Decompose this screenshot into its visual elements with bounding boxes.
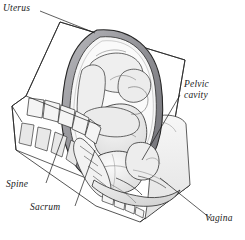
anatomical-figure: Uterus Pelvic cavity Spine Sacrum Vagina — [0, 0, 245, 240]
label-vagina: Vagina — [205, 213, 233, 224]
label-pelvic-cavity-line2: cavity — [184, 90, 208, 100]
label-uterus: Uterus — [3, 3, 30, 14]
label-spine: Spine — [6, 179, 28, 190]
label-sacrum: Sacrum — [30, 202, 60, 213]
label-pelvic-cavity: Pelvic cavity — [184, 79, 236, 101]
label-pelvic-cavity-line1: Pelvic — [184, 79, 209, 89]
